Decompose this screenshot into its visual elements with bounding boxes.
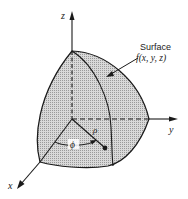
rho-label: ρ (92, 125, 98, 135)
z-axis-label: z (60, 10, 65, 21)
x-axis (21, 162, 40, 184)
y-axis-arrowhead (169, 117, 178, 122)
point-marker (103, 146, 108, 151)
surface-patch (37, 51, 149, 168)
surface-diagram: z y x Surface f(x, y, z) ρ ϕ (0, 0, 188, 199)
surface-title: Surface (140, 42, 171, 52)
x-axis-label: x (7, 180, 13, 191)
surface-function: f(x, y, z) (136, 53, 166, 64)
annotation-leader (111, 58, 138, 74)
phi-label: ϕ (70, 140, 75, 150)
z-axis-arrowhead (70, 11, 75, 20)
y-axis-label: y (168, 124, 174, 135)
